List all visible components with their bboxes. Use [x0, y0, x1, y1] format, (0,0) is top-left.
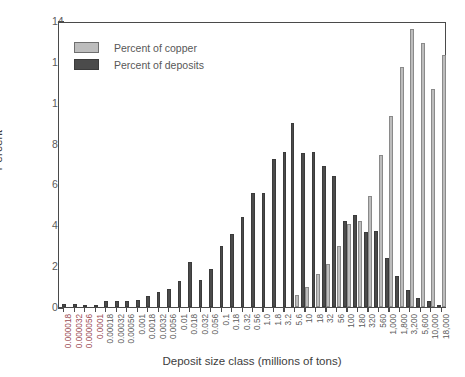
- x-tick-mark: [315, 308, 316, 312]
- bar-copper: [347, 224, 351, 307]
- bar-deposits: [416, 298, 420, 307]
- x-tick-label: 0.00056: [127, 314, 136, 344]
- bar-deposits: [332, 176, 336, 307]
- x-tick-mark: [231, 308, 232, 312]
- x-tick-label: 320: [368, 314, 377, 328]
- x-tick-mark: [430, 308, 431, 312]
- bar-deposits: [115, 301, 119, 307]
- bar-deposits: [94, 305, 98, 307]
- x-tick-mark: [336, 308, 337, 312]
- x-tick-mark: [242, 308, 243, 312]
- x-tick-mark: [357, 308, 358, 312]
- x-tick-mark: [252, 308, 253, 312]
- bar-deposits: [220, 246, 224, 307]
- bar-deposits: [167, 289, 171, 307]
- x-tick-label: 0.056: [211, 314, 220, 335]
- x-tick-label: 0.0001: [96, 314, 105, 339]
- x-tick-mark: [116, 308, 117, 312]
- x-tick-label: 0.0032: [159, 314, 168, 339]
- x-tick-mark: [84, 308, 85, 312]
- x-tick-label: 0.01: [180, 314, 189, 330]
- bar-deposits: [83, 305, 87, 307]
- x-tick-mark: [420, 308, 421, 312]
- x-tick-mark: [189, 308, 190, 312]
- x-tick-mark: [325, 308, 326, 312]
- bar-copper: [421, 43, 425, 307]
- bar-copper: [326, 264, 330, 307]
- x-tick-label: 180: [358, 314, 367, 328]
- x-tick-label: 1.8: [274, 314, 283, 325]
- x-tick-mark: [63, 308, 64, 312]
- x-tick-label: 1,000: [389, 314, 398, 335]
- bar-deposits: [343, 221, 347, 307]
- x-tick-label: 0.000018: [64, 314, 73, 348]
- x-tick-mark: [210, 308, 211, 312]
- bar-deposits: [157, 292, 161, 307]
- bar-copper: [368, 196, 372, 307]
- x-tick-label: 0.018: [190, 314, 199, 335]
- bar-copper: [337, 246, 341, 307]
- bar-deposits: [312, 152, 316, 307]
- bar-deposits: [199, 280, 203, 307]
- x-tick-label: 560: [379, 314, 388, 328]
- x-tick-label: 3,200: [410, 314, 419, 335]
- x-tick-label: 0.032: [201, 314, 210, 335]
- bar-copper: [442, 55, 446, 307]
- x-tick-label: 0.00032: [117, 314, 126, 344]
- x-tick-mark: [126, 308, 127, 312]
- bar-deposits: [353, 215, 357, 307]
- bar-deposits: [62, 304, 66, 307]
- bar-copper: [295, 295, 299, 307]
- x-tick-mark: [378, 308, 379, 312]
- x-tick-mark: [294, 308, 295, 312]
- x-tick-label: 0.0056: [169, 314, 178, 339]
- x-tick-label: 0.32: [243, 314, 252, 330]
- x-tick-mark: [441, 308, 442, 312]
- bar-deposits: [241, 217, 245, 307]
- x-tick-label: 10: [305, 314, 314, 323]
- bar-deposits: [272, 159, 276, 307]
- x-tick-label: 18,000: [442, 314, 451, 339]
- copper-swatch: [74, 42, 99, 53]
- x-tick-mark: [168, 308, 169, 312]
- x-tick-mark: [105, 308, 106, 312]
- bar-deposits: [385, 258, 389, 307]
- x-tick-mark: [409, 308, 410, 312]
- bar-copper: [400, 67, 404, 307]
- x-tick-label: 10,000: [431, 314, 440, 339]
- chart-legend: Percent of copper Percent of deposits: [74, 40, 204, 74]
- x-tick-label: 32: [326, 314, 335, 323]
- x-tick-label: 56: [337, 314, 346, 323]
- bar-deposits: [73, 304, 77, 307]
- x-tick-label: 0.1: [222, 314, 231, 325]
- x-tick-mark: [399, 308, 400, 312]
- bar-deposits: [262, 193, 266, 307]
- bar-deposits: [209, 269, 213, 307]
- bar-deposits: [364, 232, 368, 307]
- bar-deposits: [188, 262, 192, 307]
- x-tick-mark: [179, 308, 180, 312]
- x-tick-mark: [158, 308, 159, 312]
- x-axis-title: Deposit size class (millions of tons): [58, 355, 446, 367]
- x-tick-label: 0.000032: [75, 314, 84, 348]
- bar-deposits: [291, 123, 295, 307]
- x-tick-label: 5.6: [295, 314, 304, 325]
- legend-item-copper: Percent of copper: [74, 40, 204, 55]
- bar-deposits: [374, 231, 378, 307]
- x-tick-mark: [304, 308, 305, 312]
- x-tick-label: 0.18: [232, 314, 241, 330]
- y-axis-title: Percent: [0, 129, 4, 170]
- x-tick-label: 18: [316, 314, 325, 323]
- x-tick-label: 0.000056: [85, 314, 94, 348]
- bar-deposits: [301, 153, 305, 307]
- bar-deposits: [251, 193, 255, 307]
- x-tick-mark: [74, 308, 75, 312]
- bar-deposits: [125, 301, 129, 307]
- bar-deposits: [104, 301, 108, 307]
- bar-copper: [358, 221, 362, 307]
- x-tick-mark: [283, 308, 284, 312]
- bar-deposits: [395, 276, 399, 307]
- legend-label-deposits: Percent of deposits: [114, 59, 204, 71]
- x-tick-mark: [346, 308, 347, 312]
- x-tick-label: 0.001: [138, 314, 147, 335]
